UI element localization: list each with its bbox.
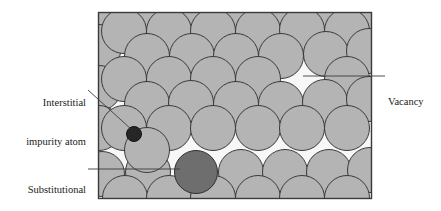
label-interstitial-line1: Interstitial bbox=[0, 96, 86, 109]
substitutional-impurity-atom bbox=[175, 151, 218, 194]
label-substitutional-line1: Substitutional bbox=[0, 183, 86, 196]
atom-lattice bbox=[77, 0, 393, 211]
label-interstitial-line2: impurity atom bbox=[0, 135, 86, 148]
label-vacancy-line1: Vacancy bbox=[388, 95, 441, 108]
interstitial-impurity-atom bbox=[127, 127, 142, 142]
label-interstitial-impurity-atom: Interstitial impurity atom bbox=[0, 70, 86, 161]
host-atom bbox=[236, 106, 281, 151]
host-atom bbox=[325, 106, 370, 151]
host-atom bbox=[191, 106, 236, 151]
host-atom bbox=[280, 106, 325, 151]
label-substitutional-impurity-atom: Substitutional impurity atom bbox=[0, 157, 86, 211]
label-vacancy: Vacancy bbox=[388, 69, 441, 121]
